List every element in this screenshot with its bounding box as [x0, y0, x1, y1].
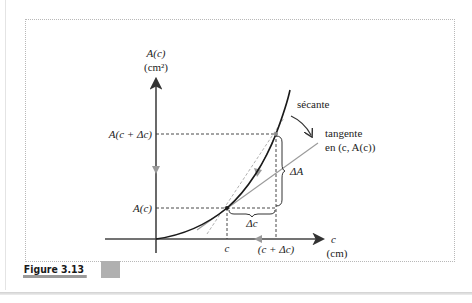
figure-caption-text: Figure 3.13 [23, 263, 87, 278]
area-curve [156, 90, 290, 239]
x-tick-c-plus-delta: (c + Δc) [258, 243, 295, 256]
tangent-label-line2: en (c, A(c)) [325, 141, 376, 154]
figure-diagram: A(c) (cm²) A(c + Δc) A(c) c (c + Δc) c (… [0, 0, 472, 303]
y-axis-gray-arrow-icon [152, 166, 160, 174]
y-tick-upper: A(c + Δc) [108, 128, 153, 141]
figure-caption: Figure 3.13 [23, 263, 120, 278]
rotation-arrow-icon [291, 116, 311, 135]
x-axis-gray-arrow-icon [254, 235, 262, 243]
x-axis-label: c [331, 233, 336, 245]
caption-gray-block [101, 261, 120, 278]
tangent-label-line1: tangente [325, 127, 362, 139]
delta-a-label: ΔA [289, 165, 303, 177]
x-axis-unit: (cm) [327, 247, 348, 260]
delta-c-brace [229, 210, 275, 217]
y-axis-unit: (cm²) [144, 61, 168, 74]
secant-label: sécante [297, 98, 329, 110]
x-tick-c: c [225, 242, 230, 254]
point-c [225, 206, 229, 210]
y-tick-lower: A(c) [132, 202, 152, 215]
delta-a-brace [276, 136, 285, 206]
y-axis-label: A(c) [146, 47, 166, 60]
point-c-plus-delta [274, 132, 278, 136]
delta-c-label: Δc [245, 217, 257, 229]
